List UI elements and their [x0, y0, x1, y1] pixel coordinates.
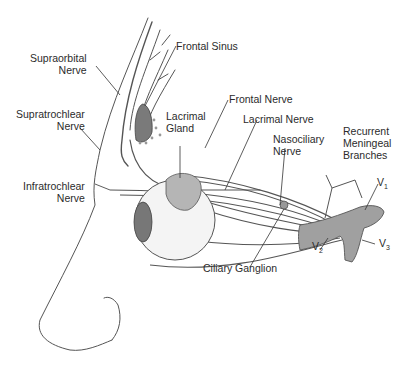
label-lacrimal-nerve: Lacrimal Nerve [243, 113, 314, 125]
label-line: Lacrimal [166, 110, 206, 122]
label-supratrochlear-nerve: SupratrochlearNerve [16, 108, 85, 132]
label-v2: V2 [312, 240, 323, 257]
label-subscript: 3 [386, 244, 390, 251]
label-base: V [377, 176, 384, 188]
label-line: Nerve [57, 192, 85, 204]
label-nasociliary-nerve: NasociliaryNerve [273, 133, 324, 157]
label-line: Infratrochlear [23, 180, 85, 192]
label-subscript: 2 [319, 247, 323, 254]
label-v3: V3 [379, 237, 390, 254]
label-line: Recurrent [343, 125, 389, 137]
label-v1: V1 [377, 176, 388, 193]
label-base: V [312, 240, 319, 252]
label-line: Gland [166, 122, 194, 134]
label-line: Supratrochlear [16, 108, 85, 120]
label-base: V [379, 237, 386, 249]
ciliary-ganglion [280, 201, 288, 209]
label-ciliary-ganglion: Ciliary Ganglion [203, 262, 277, 274]
label-line: Supraorbital [30, 52, 87, 64]
label-infratrochlear-nerve: InfratrochlearNerve [23, 180, 85, 204]
label-supraorbital-nerve: SupraorbitalNerve [30, 52, 87, 76]
label-subscript: 1 [384, 183, 388, 190]
label-frontal-sinus: Frontal Sinus [176, 40, 238, 52]
label-line: Nerve [59, 64, 87, 76]
label-line: Nasociliary [273, 133, 324, 145]
label-line: Nerve [57, 120, 85, 132]
label-line: Branches [343, 149, 387, 161]
label-line: Nerve [273, 145, 301, 157]
label-recurrent-meningeal-branches: RecurrentMeningealBranches [343, 125, 391, 161]
label-lacrimal-gland: LacrimalGland [166, 110, 206, 134]
label-line: Meningeal [343, 137, 391, 149]
frontal-sinus [135, 104, 152, 142]
label-frontal-nerve: Frontal Nerve [229, 93, 293, 105]
